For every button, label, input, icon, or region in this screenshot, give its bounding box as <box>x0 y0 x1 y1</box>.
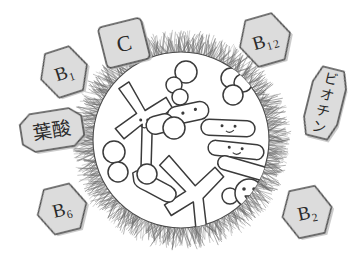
bacterium-right-upper <box>201 119 256 137</box>
vitamin-immune-cell-illustration: B₁CB₁₂ビオチン葉酸B₆B₂ <box>0 0 363 270</box>
cell-interior-free <box>137 164 157 184</box>
illustration-canvas: B₁CB₁₂ビオチン葉酸B₆B₂ <box>0 0 363 270</box>
cell-mid-left <box>163 117 185 139</box>
